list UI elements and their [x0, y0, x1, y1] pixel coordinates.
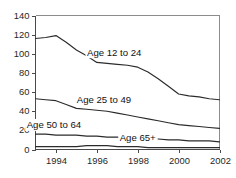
x-tick-label: 2002 — [210, 155, 231, 166]
series-label-3: Age 65+ — [120, 132, 156, 143]
y-tick-label: 0 — [24, 144, 29, 155]
x-tick-label: 2000 — [169, 155, 190, 166]
y-tick-label: 100 — [14, 48, 30, 59]
series-label-2: Age 50 to 64 — [27, 119, 82, 130]
y-tick-label: 80 — [19, 67, 29, 78]
x-tick-label: 1998 — [128, 155, 149, 166]
y-tick-label: 40 — [19, 105, 29, 116]
series-label-1: Age 25 to 49 — [77, 94, 131, 105]
y-tick-label: 120 — [14, 29, 30, 40]
x-tick-label: 1994 — [46, 155, 67, 166]
chart-canvas: 020406080100120140 19941996199820002002 … — [0, 0, 236, 178]
y-tick-label: 60 — [19, 86, 29, 97]
series-label-0: Age 12 to 24 — [87, 47, 142, 58]
x-tick-label: 1996 — [87, 155, 108, 166]
y-tick-label: 140 — [14, 10, 30, 21]
line-chart: 020406080100120140 19941996199820002002 … — [0, 0, 236, 178]
